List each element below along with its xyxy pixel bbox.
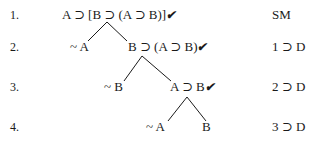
branch-1-right [107,22,127,41]
line-number-3: 3. [10,80,19,94]
branch-2-right [142,56,171,81]
node-b-implies-a-implies-b: B ⊃ (A ⊃ B)✔ [128,40,208,54]
branch-3-right [187,97,206,121]
branch-2-left [124,56,142,81]
justification-3: 2 ⊃ D [272,80,305,94]
branch-3-left [168,97,187,121]
node-not-b: ~ B [104,80,123,94]
check-icon: ✔ [197,40,209,54]
check-icon: ✔ [205,80,217,94]
node-not-a-left: ~ A [70,40,89,54]
node-formula-text: B ⊃ (A ⊃ B) [128,39,197,54]
line-number-1: 1. [10,8,19,22]
root-formula: A ⊃ [B ⊃ (A ⊃ B)]✔ [62,8,177,22]
root-formula-text: A ⊃ [B ⊃ (A ⊃ B)] [62,7,166,22]
line-number-2: 2. [10,40,19,54]
check-icon: ✔ [166,8,178,22]
line-number-4: 4. [10,120,19,134]
branch-1-left [88,22,107,41]
node-b-leaf: B [202,120,211,134]
node-formula-text: A ⊃ B [170,79,205,94]
justification-1: SM [272,8,291,22]
justification-2: 1 ⊃ D [272,40,305,54]
justification-4: 3 ⊃ D [272,120,305,134]
node-a-implies-b: A ⊃ B✔ [170,80,216,94]
node-not-a-leaf: ~ A [146,120,165,134]
